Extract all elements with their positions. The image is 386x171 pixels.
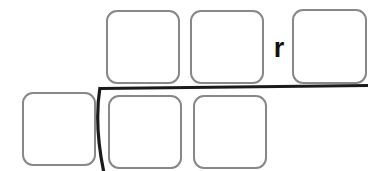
divisor-digit-1-box[interactable]: [22, 92, 96, 166]
remainder-digit-1-box[interactable]: [292, 9, 367, 84]
quotient-digit-1-box[interactable]: [106, 10, 180, 84]
dividend-digit-2-box[interactable]: [193, 95, 267, 169]
worksheet-canvas: r: [0, 0, 386, 171]
quotient-digit-2-box[interactable]: [190, 10, 264, 84]
division-bracket-curve: [98, 87, 104, 171]
division-bar-line: [101, 86, 369, 89]
remainder-marker-label: r: [270, 32, 288, 64]
dividend-digit-1-box[interactable]: [108, 95, 182, 169]
